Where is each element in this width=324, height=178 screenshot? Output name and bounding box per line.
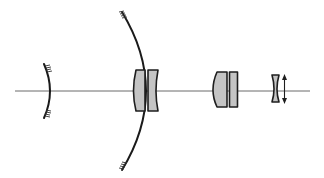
- field-doublet: [213, 72, 238, 107]
- lens-right: [148, 70, 158, 111]
- lens-left: [213, 72, 227, 107]
- corrector-doublet: [134, 70, 159, 111]
- negative-lens: [272, 75, 279, 102]
- lens-left: [134, 70, 146, 111]
- optical-diagram: [0, 0, 324, 178]
- mirror-hatch-icon: [119, 11, 127, 169]
- double-arrow-icon: [282, 74, 287, 104]
- lens-right: [230, 72, 238, 107]
